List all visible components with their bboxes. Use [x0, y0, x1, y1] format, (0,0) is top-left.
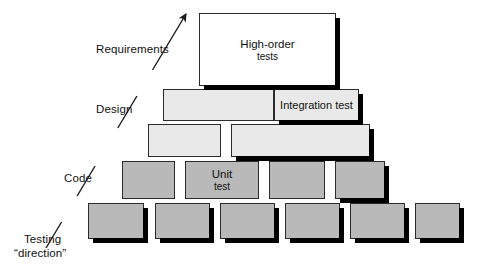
brick-unit-test: Unittest	[185, 161, 259, 199]
brick-tier3-block-2	[231, 124, 370, 157]
brick-shadow-bottom	[420, 238, 464, 243]
brick-label-line2: tests	[200, 50, 335, 62]
brick-tier5-block-2	[155, 203, 210, 239]
brick-tier4-block-1	[122, 161, 175, 199]
brick-shadow-bottom	[236, 156, 374, 161]
brick-tier4-block-3	[269, 161, 325, 199]
diagram-canvas: UnittestIntegration testHigh-ordertests …	[0, 0, 484, 269]
label-code: Code	[64, 172, 92, 185]
brick-tier3-block-1	[148, 124, 221, 157]
brick-shadow-right	[335, 18, 340, 90]
brick-label-line1: High-order	[200, 37, 335, 50]
label-requirements: Requirements	[96, 43, 169, 56]
brick-shadow-bottom	[290, 238, 344, 243]
brick-tier5-block-4	[285, 203, 340, 239]
brick-high-order-tests: High-ordertests	[199, 13, 336, 86]
arrow-segment-4	[153, 14, 187, 70]
brick-label-line1: Integration test	[275, 99, 358, 112]
brick-integration-test: Integration test	[274, 89, 359, 121]
brick-tier5-block-3	[220, 203, 275, 239]
brick-shadow-bottom	[340, 198, 389, 203]
brick-tier5-block-5	[350, 203, 405, 239]
brick-shadow-bottom	[355, 238, 409, 243]
brick-label-integration-test: Integration test	[275, 99, 358, 112]
brick-label-line2: test	[186, 181, 258, 193]
brick-shadow-bottom	[160, 238, 214, 243]
brick-shadow-bottom	[279, 120, 363, 125]
brick-label-high-order-tests: High-ordertests	[200, 37, 335, 62]
brick-shadow-bottom	[93, 238, 148, 243]
brick-shadow-bottom	[204, 85, 340, 90]
label-testing-direction-line1: Testing	[24, 233, 61, 246]
brick-label-line1: Unit	[186, 168, 258, 181]
brick-tier5-block-6	[415, 203, 460, 239]
label-design: Design	[96, 103, 132, 116]
brick-tier5-block-1	[88, 203, 144, 239]
brick-label-unit-test: Unittest	[186, 168, 258, 193]
label-testing-direction-line2: “direction”	[14, 247, 66, 260]
brick-tier2-block-1	[163, 89, 274, 121]
brick-tier4-block-4	[335, 161, 385, 199]
brick-shadow-bottom	[225, 238, 279, 243]
